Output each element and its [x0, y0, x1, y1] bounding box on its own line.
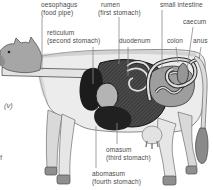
- hind-leg-near: [158, 118, 176, 177]
- diagram-cow-digestive-system: oesophagus (food pipe) rumen (first stom…: [0, 0, 213, 190]
- front-hoof-near: [57, 175, 70, 184]
- label-anus-name: anus: [193, 37, 208, 45]
- label-reticulum: reticulum (second stomach): [47, 29, 100, 45]
- front-leg-near: [59, 114, 75, 176]
- label-colon-name: colon: [167, 37, 183, 45]
- label-rumen-detail: (first stomach): [98, 9, 141, 17]
- label-abomasum: abomasum (fourth stomach): [92, 170, 141, 186]
- label-caecum: caecum: [183, 18, 206, 26]
- label-small-intestine: small intestine: [160, 1, 203, 9]
- tail-tuft: [196, 128, 209, 163]
- hind-hoof-far: [186, 166, 197, 174]
- label-anus: anus: [193, 37, 208, 45]
- margin-note-v: (v): [4, 101, 13, 110]
- label-reticulum-name: reticulum: [47, 29, 100, 37]
- label-oesophagus-name: oesophagus: [41, 1, 77, 9]
- hind-hoof-near: [163, 176, 176, 185]
- label-omasum-name: omasum: [106, 146, 151, 154]
- margin-text-fragment: f: [0, 153, 2, 162]
- udder: [142, 126, 162, 144]
- label-colon: colon: [167, 37, 183, 45]
- label-abomasum-name: abomasum: [92, 170, 141, 178]
- label-oesophagus: oesophagus (food pipe): [41, 1, 77, 17]
- label-reticulum-detail: (second stomach): [47, 37, 100, 45]
- label-rumen-name: rumen: [98, 1, 141, 9]
- label-duodenum-name: duodenum: [119, 37, 151, 45]
- label-omasum-detail: (third stomach): [106, 154, 151, 162]
- front-hoof-far: [45, 167, 57, 175]
- label-omasum: omasum (third stomach): [106, 146, 151, 162]
- label-small-intestine-name: small intestine: [160, 1, 203, 9]
- label-duodenum: duodenum: [119, 37, 151, 45]
- eye: [8, 51, 11, 54]
- label-rumen: rumen (first stomach): [98, 1, 141, 17]
- label-caecum-name: caecum: [183, 18, 206, 26]
- label-oesophagus-detail: (food pipe): [41, 9, 77, 17]
- cow-head: [0, 37, 42, 73]
- label-abomasum-detail: (fourth stomach): [92, 178, 141, 186]
- omasum-organ: [96, 83, 118, 109]
